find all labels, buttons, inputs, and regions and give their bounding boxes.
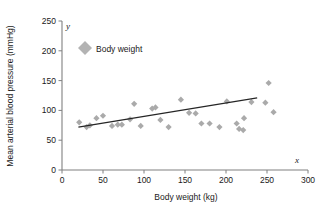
data-point-marker [76, 119, 82, 125]
data-point-marker [262, 100, 268, 106]
x-tick-label: 200 [219, 175, 233, 185]
data-point-marker [248, 99, 254, 105]
legend-label-body-weight: Body weight [96, 44, 143, 54]
data-point-marker [157, 117, 163, 123]
x-tick-label: 150 [178, 175, 192, 185]
y-axis-letter: y [65, 21, 70, 31]
y-tick-label: 200 [42, 46, 56, 56]
trend-line-layer [78, 98, 257, 127]
y-tick-label: 50 [47, 135, 57, 145]
data-point-marker [109, 123, 115, 129]
data-point-marker [207, 120, 213, 126]
y-tick-label: 250 [42, 16, 56, 26]
data-point-marker [234, 120, 240, 126]
x-tick-label: 100 [137, 175, 151, 185]
data-point-marker [119, 122, 125, 128]
data-point-marker [166, 124, 172, 130]
y-tick-label: 100 [42, 105, 56, 115]
data-point-marker [93, 115, 99, 121]
y-axis-ticks: 050100150200250 [42, 16, 62, 175]
y-tick-label: 0 [51, 165, 56, 175]
data-points-layer [76, 80, 277, 133]
data-point-marker [100, 113, 106, 119]
scatter-chart-figure: 050100150200250 050100150200250300 Body … [0, 0, 322, 210]
data-point-marker [198, 120, 204, 126]
data-point-marker [131, 101, 137, 107]
data-point-marker [216, 124, 222, 130]
x-tick-label: 250 [260, 175, 274, 185]
y-axis-title: Mean arterial blood pressure (mmHg) [5, 25, 15, 166]
trend-line [78, 98, 257, 127]
x-tick-label: 0 [60, 175, 65, 185]
axes-group: 050100150200250 050100150200250300 [42, 16, 316, 185]
chart-legend: Body weight [78, 41, 143, 55]
x-tick-label: 50 [98, 175, 108, 185]
data-point-marker [266, 80, 272, 86]
data-point-marker [241, 115, 247, 121]
chart-canvas: 050100150200250 050100150200250300 Body … [0, 0, 322, 210]
legend-marker-diamond [78, 41, 92, 55]
data-point-marker [178, 97, 184, 103]
data-point-marker [270, 109, 276, 115]
data-point-marker [186, 110, 192, 116]
x-tick-label: 300 [301, 175, 315, 185]
x-axis-title: Body weight (kg) [154, 192, 217, 202]
data-point-marker [193, 110, 199, 116]
y-tick-label: 150 [42, 76, 56, 86]
x-axis-letter: x [294, 155, 299, 165]
data-point-marker [138, 123, 144, 129]
x-axis-ticks: 050100150200250300 [60, 170, 316, 185]
